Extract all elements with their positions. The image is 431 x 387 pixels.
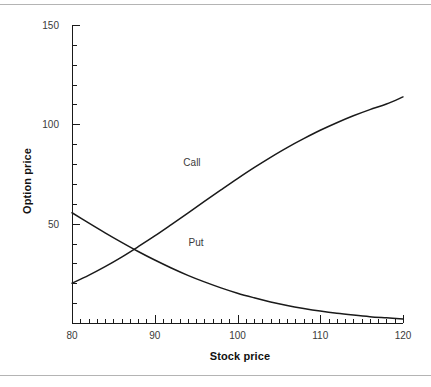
series-line-call <box>72 97 403 283</box>
series-line-put <box>72 213 403 319</box>
x-tick-label-90: 90 <box>149 330 160 341</box>
x-tick-label-100: 100 <box>229 330 246 341</box>
series-label-put: Put <box>189 236 204 247</box>
x-axis-title: Stock price <box>210 350 270 362</box>
y-tick-label-100: 100 <box>42 119 59 130</box>
series-label-call: Call <box>183 157 200 168</box>
figure-container: Option price Stock price 809010011012050… <box>0 0 431 387</box>
x-tick-label-110: 110 <box>312 330 328 341</box>
x-tick-label-80: 80 <box>66 330 77 341</box>
y-tick-label-50: 50 <box>48 218 59 229</box>
x-tick-label-120: 120 <box>395 330 412 341</box>
chart-plot-area <box>0 0 431 387</box>
y-tick-label-150: 150 <box>42 20 59 31</box>
series-group <box>72 97 403 319</box>
axes-group <box>72 25 404 324</box>
y-axis-title: Option price <box>21 148 33 214</box>
